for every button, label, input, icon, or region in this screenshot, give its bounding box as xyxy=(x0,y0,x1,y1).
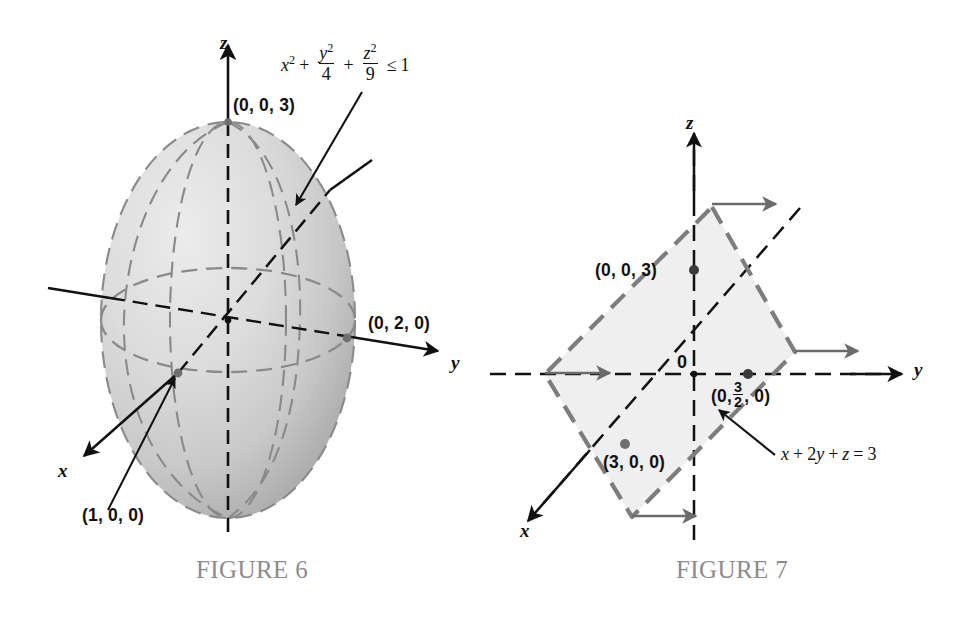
figure-6-panel: z y x (0, 0, 3) (0, 2, 0) (1, 0, 0) x2 +… xyxy=(0,0,500,620)
figure-7-graphic xyxy=(470,0,973,560)
eqn-frac-z2-over-9: z2 9 xyxy=(361,44,380,85)
plane-eqn-coef-y: 2 xyxy=(807,444,816,465)
eqn-plus-2: + xyxy=(343,55,353,76)
eqn-term-x: x2 xyxy=(281,55,295,76)
point-dot-3-0-0 xyxy=(620,439,630,449)
plane-eqn-plus-1: + xyxy=(793,444,803,465)
figure7-y-axis-label: y xyxy=(914,359,922,381)
plane-region-fill xyxy=(545,207,795,517)
figure7-point-label-3-0-0: (3, 0, 0) xyxy=(603,452,665,473)
plane-eqn-plus-2: + xyxy=(828,444,838,465)
fraction-denominator: 2 xyxy=(733,394,743,411)
eqn-plus-1: + xyxy=(299,55,309,76)
figure7-x-axis-label: x xyxy=(520,520,530,542)
equation-leader-line xyxy=(296,92,362,205)
eqn-frac2-numerator: z2 xyxy=(361,44,380,63)
fraction-numerator: 3 xyxy=(733,380,743,394)
point-dot-1-0-0 xyxy=(174,369,183,378)
y-axis-arrow xyxy=(345,336,438,351)
plane-eqn-rhs: 3 xyxy=(867,444,876,465)
plane-eqn-var-y: y xyxy=(816,444,824,465)
plane-eqn-var-z: z xyxy=(842,444,849,465)
figure6-point-label-0-2-0: (0, 2, 0) xyxy=(368,313,430,334)
figure-7-panel: z y x 0 (0, 0, 3) (0, 3 2 , 0) (3, 0, 0)… xyxy=(470,0,973,620)
figure7-point-label-0-0-3: (0, 0, 3) xyxy=(595,260,657,281)
point-dot-0-0-3 xyxy=(224,118,232,126)
x-axis-upper-tail xyxy=(330,160,372,190)
point-label-prefix: (0, xyxy=(711,386,732,407)
origin-dot xyxy=(691,371,697,377)
eqn-frac2-denominator: 9 xyxy=(363,63,378,85)
figure-6-graphic xyxy=(0,0,500,560)
figure6-x-axis-label: x xyxy=(58,460,68,482)
plane-equation-leader-line xyxy=(719,410,775,455)
x-axis-arrow-segment xyxy=(528,450,590,521)
figure7-point-label-0-three-halves-0: (0, 3 2 , 0) xyxy=(711,381,770,412)
figure6-equation: x2 + y2 4 + z2 9 ≤ 1 xyxy=(281,45,410,86)
figure7-plane-equation: x + 2y + z = 3 xyxy=(781,444,876,465)
point-dot-0-0-3 xyxy=(689,265,699,275)
figure7-origin-label: 0 xyxy=(677,352,687,373)
point-label-suffix: , 0) xyxy=(744,386,770,407)
point-dot-0-2-0 xyxy=(343,334,352,343)
plane-eqn-x: x xyxy=(781,444,789,465)
figure7-z-axis-label: z xyxy=(686,112,693,134)
figure6-point-label-1-0-0: (1, 0, 0) xyxy=(82,505,144,526)
figure-6-caption: FIGURE 6 xyxy=(196,556,308,584)
point-dot-0-three-halves-0 xyxy=(743,369,753,379)
point-label-fraction: 3 2 xyxy=(733,380,743,411)
plane-eqn-equals: = xyxy=(853,444,863,465)
y-axis-left-tail xyxy=(48,288,110,298)
figure6-y-axis-label: y xyxy=(451,352,459,374)
figure6-z-axis-label: z xyxy=(220,32,227,54)
eqn-frac1-denominator: 4 xyxy=(319,63,334,85)
figure6-point-label-0-0-3: (0, 0, 3) xyxy=(233,95,295,116)
eqn-relation-leq: ≤ xyxy=(387,55,397,76)
origin-dot xyxy=(225,317,232,324)
eqn-frac1-numerator: y2 xyxy=(316,44,336,63)
figure-7-caption: FIGURE 7 xyxy=(676,556,788,584)
figure-page: z y x (0, 0, 3) (0, 2, 0) (1, 0, 0) x2 +… xyxy=(0,0,973,620)
eqn-frac-y2-over-4: y2 4 xyxy=(316,44,336,85)
eqn-rhs-1: 1 xyxy=(401,55,410,76)
